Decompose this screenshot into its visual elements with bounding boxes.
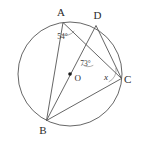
center-label-O: O — [75, 73, 82, 83]
chord-DC — [96, 26, 122, 79]
angle-label-54: 54° — [57, 32, 68, 41]
geometry-canvas: A D C B O 54° 73° x — [0, 0, 142, 144]
angle-label-x: x — [103, 72, 108, 82]
chord-AC — [63, 23, 122, 79]
vertex-label-B: B — [39, 124, 46, 136]
angle-label-73: 73° — [80, 59, 91, 68]
center-dot-O — [68, 72, 72, 76]
vertex-label-C: C — [124, 73, 131, 85]
vertex-label-A: A — [57, 6, 65, 18]
geometry-figure: A D C B O 54° 73° x — [0, 0, 142, 144]
vertex-label-D: D — [94, 9, 102, 21]
